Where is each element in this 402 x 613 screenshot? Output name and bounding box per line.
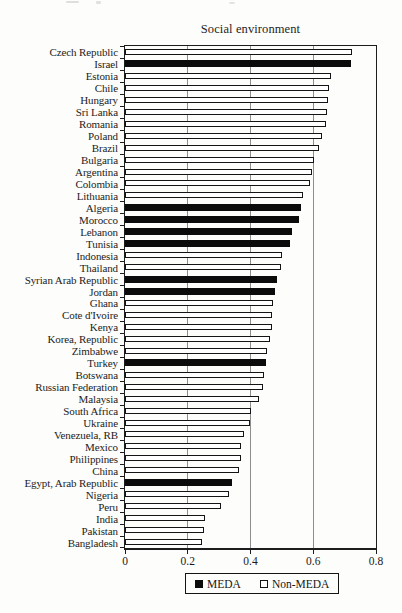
- bar: [125, 157, 314, 163]
- bar: [125, 324, 272, 330]
- bar: [125, 169, 312, 175]
- bar: [125, 515, 205, 521]
- category-label: Indonesia: [0, 250, 118, 262]
- y-axis-tick: [120, 476, 124, 477]
- x-axis-tick: [376, 550, 377, 554]
- y-axis-tick: [120, 381, 124, 382]
- bar: [125, 276, 277, 283]
- scan-artifact: [229, 2, 235, 4]
- y-axis-labels: Czech RepublicIsraelEstoniaChileHungaryS…: [0, 46, 118, 548]
- category-label: Lithuania: [0, 190, 118, 202]
- y-axis-tick: [120, 512, 124, 513]
- scan-artifact: [66, 1, 79, 3]
- bar: [125, 85, 329, 91]
- bar: [125, 336, 270, 342]
- legend-label-non-meda: Non-MEDA: [272, 578, 330, 590]
- bar: [125, 431, 244, 437]
- category-label: Israel: [0, 58, 118, 70]
- y-axis-tick: [120, 285, 124, 286]
- y-axis-tick: [120, 452, 124, 453]
- y-axis-tick: [120, 405, 124, 406]
- bar: [125, 109, 327, 115]
- category-label: Poland: [0, 130, 118, 142]
- category-label: Bangladesh: [0, 537, 118, 549]
- category-label: Romania: [0, 118, 118, 130]
- y-axis-tick: [120, 130, 124, 131]
- bar: [125, 121, 326, 127]
- x-axis-tick: [125, 550, 126, 554]
- y-axis-tick: [120, 428, 124, 429]
- category-label: Argentina: [0, 166, 118, 178]
- x-axis-tick: [187, 550, 188, 554]
- category-label: Egypt, Arab Republic: [0, 477, 118, 489]
- non-meda-open-square-icon: [260, 580, 268, 588]
- x-tick-label: 0.8: [356, 555, 396, 567]
- legend-label-meda: MEDA: [207, 578, 241, 590]
- bar: [125, 359, 266, 366]
- y-axis-tick: [120, 154, 124, 155]
- figure: Social environment Czech RepublicIsraelE…: [0, 0, 402, 613]
- bar: [125, 252, 282, 258]
- x-tick-label: 0.4: [231, 555, 271, 567]
- y-axis-tick: [120, 297, 124, 298]
- y-axis-tick: [120, 464, 124, 465]
- bar: [125, 180, 310, 186]
- bar: [125, 420, 250, 426]
- y-axis-tick: [120, 58, 124, 59]
- y-axis-tick: [120, 201, 124, 202]
- y-axis-tick: [120, 488, 124, 489]
- y-axis-tick: [120, 345, 124, 346]
- y-axis-tick: [120, 142, 124, 143]
- bar: [125, 228, 292, 235]
- bar: [125, 455, 241, 461]
- category-label: South Africa: [0, 405, 118, 417]
- category-label: Jordan: [0, 286, 118, 298]
- category-label: Mexico: [0, 441, 118, 453]
- category-label: Kenya: [0, 321, 118, 333]
- y-axis-tick: [120, 189, 124, 190]
- category-label: Zimbabwe: [0, 345, 118, 357]
- category-label: Philippines: [0, 453, 118, 465]
- x-tick-label: 0: [105, 555, 145, 567]
- bar: [125, 49, 352, 55]
- x-tick-label: 0.6: [293, 555, 333, 567]
- category-label: Tunisia: [0, 238, 118, 250]
- y-axis-tick: [120, 440, 124, 441]
- category-label: Russian Federation: [0, 381, 118, 393]
- y-axis-tick: [120, 166, 124, 167]
- category-label: Estonia: [0, 70, 118, 82]
- meda-filled-square-icon: [195, 580, 203, 588]
- y-axis-tick: [120, 261, 124, 262]
- category-label: Algeria: [0, 202, 118, 214]
- x-axis-tick: [313, 550, 314, 554]
- y-axis-tick: [120, 500, 124, 501]
- bar: [125, 312, 272, 318]
- category-label: Ukraine: [0, 417, 118, 429]
- y-axis-tick: [120, 393, 124, 394]
- bar: [125, 73, 331, 79]
- y-axis-tick: [120, 94, 124, 95]
- bar: [125, 204, 301, 211]
- y-axis-tick: [120, 177, 124, 178]
- bar: [125, 133, 322, 139]
- bar: [125, 145, 319, 151]
- y-axis-tick: [120, 357, 124, 358]
- y-axis-tick: [120, 369, 124, 370]
- category-label: Nigeria: [0, 489, 118, 501]
- category-label: Hungary: [0, 94, 118, 106]
- bar: [125, 372, 264, 378]
- legend: MEDA Non-MEDA: [185, 573, 339, 594]
- bar: [125, 479, 232, 486]
- bar: [125, 216, 299, 223]
- category-label: Peru: [0, 501, 118, 513]
- category-label: Bulgaria: [0, 154, 118, 166]
- bar: [125, 467, 239, 473]
- y-axis-tick: [120, 321, 124, 322]
- category-label: Colombia: [0, 178, 118, 190]
- y-axis-tick: [120, 309, 124, 310]
- bar: [125, 192, 303, 198]
- bar: [125, 288, 275, 295]
- category-label: Cote d'Ivoire: [0, 309, 118, 321]
- bar: [125, 384, 263, 390]
- scan-artifact: [96, 1, 101, 4]
